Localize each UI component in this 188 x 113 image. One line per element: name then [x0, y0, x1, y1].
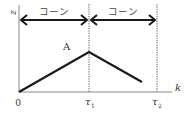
interval-label-1: コーン — [39, 6, 69, 17]
svg-text:2: 2 — [158, 102, 162, 109]
x-axis-label: k — [175, 82, 181, 93]
diagram-canvas: コーン コーン z A 0 k τ 1 τ 2 — [0, 0, 188, 113]
svg-text:1: 1 — [91, 102, 95, 109]
origin-label: 0 — [15, 98, 21, 108]
data-line — [19, 52, 142, 92]
tick-tau2: τ 2 — [152, 96, 162, 109]
point-a-label: A — [62, 41, 71, 52]
tick-tau1: τ 1 — [85, 96, 95, 109]
interval-label-2: コーン — [108, 6, 138, 17]
y-axis-label: z — [8, 10, 18, 16]
